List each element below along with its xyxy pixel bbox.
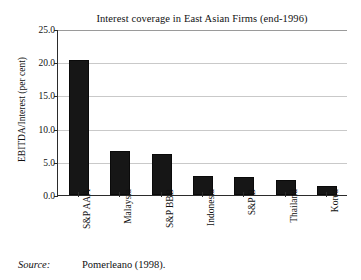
- x-tick-mark-4: [243, 192, 244, 197]
- x-tick-mark-1: [119, 192, 120, 197]
- y-tick-label-0.0: 0.0: [11, 191, 55, 201]
- x-tick-mark-6: [326, 192, 327, 197]
- y-tick-label-25.0: 25.0: [11, 25, 55, 35]
- chart-title: Interest coverage in East Asian Firms (e…: [57, 12, 347, 25]
- x-axis-tick-labels: S&P AAAMalaysiaS&P BBBIndonesiaS&P BThai…: [57, 197, 347, 247]
- source-note: Source:Pomerleano (1998).: [18, 258, 348, 271]
- bars-group: [58, 30, 347, 195]
- clipped-top-text: [0, 0, 361, 3]
- x-tick-label-s-p-aaa: S&P AAA: [82, 189, 93, 247]
- x-tick-label-s-p-b: S&P B: [247, 189, 258, 247]
- plot-area: [57, 30, 347, 196]
- source-citation: Pomerleano (1998).: [82, 258, 165, 271]
- source-label: Source:: [18, 258, 82, 271]
- x-tick-label-s-p-bbb: S&P BBB: [165, 189, 176, 247]
- y-axis-title: EBITDA/Interest (per cent): [17, 25, 28, 195]
- x-tick-mark-2: [161, 192, 162, 197]
- x-tick-label-malaysia: Malaysia: [123, 189, 134, 247]
- x-tick-label-korea: Korea: [330, 189, 341, 247]
- y-tick-label-15.0: 15.0: [11, 91, 55, 101]
- figure-container: Interest coverage in East Asian Firms (e…: [0, 0, 361, 280]
- x-tick-mark-5: [285, 192, 286, 197]
- x-tick-label-indonesia: Indonesia: [206, 189, 217, 247]
- x-tick-mark-0: [78, 192, 79, 197]
- x-tick-label-thailand: Thailand: [289, 189, 300, 247]
- y-tick-label-10.0: 10.0: [11, 125, 55, 135]
- y-tick-label-5.0: 5.0: [11, 158, 55, 168]
- y-tick-label-20.0: 20.0: [11, 58, 55, 68]
- x-tick-mark-3: [202, 192, 203, 197]
- bar-s-p-aaa: [69, 60, 89, 195]
